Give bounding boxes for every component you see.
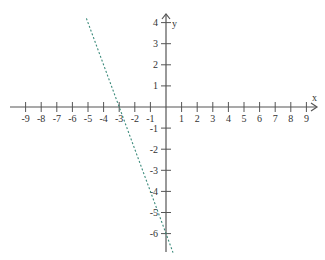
data-series bbox=[86, 18, 173, 252]
x-tick-label: 7 bbox=[273, 113, 278, 124]
y-tick-label: 3 bbox=[153, 38, 158, 49]
x-tick-label: -7 bbox=[53, 113, 61, 124]
x-tick-label: 5 bbox=[242, 113, 247, 124]
x-tick-label: 9 bbox=[304, 113, 309, 124]
coordinate-plane: -9-8-7-6-5-4-3-2-11234567894321-1-2-3-4-… bbox=[0, 0, 325, 260]
x-tick-label: -4 bbox=[99, 113, 107, 124]
y-tick-label: -5 bbox=[150, 207, 158, 218]
x-tick-label: 8 bbox=[288, 113, 293, 124]
x-tick-label: 3 bbox=[210, 113, 215, 124]
y-tick-label: 4 bbox=[153, 17, 158, 28]
x-tick-label: -9 bbox=[21, 113, 29, 124]
y-tick-label: -3 bbox=[150, 165, 158, 176]
y-tick-label: -2 bbox=[150, 144, 158, 155]
x-tick-label: 2 bbox=[195, 113, 200, 124]
x-tick-label: -8 bbox=[37, 113, 45, 124]
y-tick-label: 2 bbox=[153, 59, 158, 70]
axes bbox=[10, 14, 317, 252]
x-tick-label: -5 bbox=[84, 113, 92, 124]
x-tick-label: 4 bbox=[226, 113, 231, 124]
y-tick-label: 1 bbox=[153, 80, 158, 91]
x-tick-label: -2 bbox=[131, 113, 139, 124]
x-tick-label: 1 bbox=[179, 113, 184, 124]
x-tick-label: -3 bbox=[115, 113, 123, 124]
y-tick-label: -1 bbox=[150, 123, 158, 134]
x-axis-label: x bbox=[312, 92, 317, 103]
y-tick-label: -6 bbox=[150, 228, 158, 239]
line-series bbox=[86, 18, 173, 252]
x-tick-label: -6 bbox=[68, 113, 76, 124]
y-axis-label: y bbox=[172, 18, 177, 29]
x-tick-label: 6 bbox=[257, 113, 262, 124]
